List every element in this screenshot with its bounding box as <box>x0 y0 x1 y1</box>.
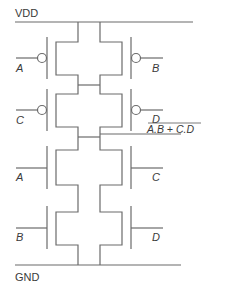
vdd-label: VDD <box>15 7 38 19</box>
nmos-a-input-label: A <box>15 171 23 183</box>
gnd-label: GND <box>15 271 40 283</box>
nmos-b-input-label: B <box>16 231 23 243</box>
pmos-c-input-label: C <box>16 114 24 126</box>
cmos-schematic: VDD GND A B C D A.B + C.D <box>0 0 230 292</box>
output-node: A.B + C.D <box>100 123 201 135</box>
pmos-a-channel <box>56 22 78 85</box>
nmos-b-channel <box>56 196 78 265</box>
pmos-stage-1: A B <box>15 22 163 85</box>
pmos-d-bubble <box>132 106 141 115</box>
pmos-b-channel <box>100 22 122 85</box>
pmos-d-channel <box>100 85 122 137</box>
pmos-stage-2: C D <box>16 85 163 137</box>
nmos-d-channel <box>100 196 122 265</box>
pmos-c-channel <box>56 85 78 137</box>
nmos-stage-1: A C <box>15 137 163 196</box>
pmos-c-bubble <box>38 106 47 115</box>
nmos-c-channel <box>100 137 122 196</box>
pmos-a-bubble <box>38 54 47 63</box>
nmos-d-input-label: D <box>152 231 160 243</box>
pmos-a-input-label: A <box>15 62 23 74</box>
output-label: A.B + C.D <box>146 123 194 135</box>
nmos-a-channel <box>56 137 78 196</box>
nmos-c-input-label: C <box>152 171 160 183</box>
nmos-stage-2: B D <box>16 196 163 265</box>
pmos-b-bubble <box>132 54 141 63</box>
pmos-b-input-label: B <box>152 62 159 74</box>
